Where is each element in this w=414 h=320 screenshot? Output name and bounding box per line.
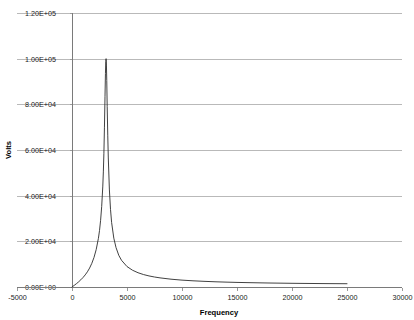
x-tick-label: -5000 — [8, 293, 26, 302]
x-tick-label: 15000 — [228, 293, 248, 302]
y-tick-label: 6.00E+04 — [25, 146, 56, 155]
x-tick-label: 30000 — [393, 293, 413, 302]
chart-container: 0.00E+002.00E+044.00E+046.00E+048.00E+04… — [0, 0, 414, 320]
chart-background — [0, 0, 414, 320]
resonance-line-chart: 0.00E+002.00E+044.00E+046.00E+048.00E+04… — [0, 0, 414, 320]
y-tick-label: 4.00E+04 — [25, 192, 56, 201]
x-tick-label: 25000 — [338, 293, 358, 302]
y-tick-label: 8.00E+04 — [25, 100, 56, 109]
y-tick-label: 1.20E+05 — [25, 9, 56, 18]
y-tick-label: 2.00E+04 — [25, 237, 56, 246]
x-axis-title: Frequency — [200, 308, 239, 317]
y-tick-label: 1.00E+05 — [25, 55, 56, 64]
y-axis-title: Volts — [4, 141, 13, 159]
x-tick-label: 5000 — [120, 293, 136, 302]
x-tick-label: 0 — [71, 293, 75, 302]
x-tick-label: 10000 — [173, 293, 193, 302]
x-tick-label: 20000 — [283, 293, 303, 302]
